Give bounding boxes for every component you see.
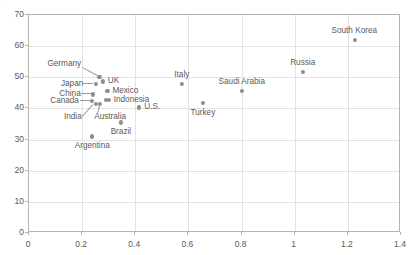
y-axis-tick-label: 70 <box>0 10 24 19</box>
point-label: Saudi Arabia <box>219 78 265 86</box>
x-axis-tick-label: 0.8 <box>226 240 256 249</box>
y-axis-tick-mark <box>25 201 28 202</box>
y-axis-tick-label: 30 <box>0 135 24 144</box>
data-point[interactable] <box>94 82 98 86</box>
gridline-horizontal <box>29 77 399 78</box>
point-label: Russia <box>290 59 315 67</box>
y-axis-tick-mark <box>25 139 28 140</box>
point-label: UK <box>108 77 119 85</box>
label-leader-line <box>82 67 97 76</box>
x-axis-tick-mark <box>294 232 295 235</box>
x-axis-tick-label: 1.2 <box>332 240 362 249</box>
point-label: Argentina <box>75 142 110 150</box>
data-point[interactable] <box>101 79 105 83</box>
gridline-vertical <box>82 15 83 231</box>
x-axis-tick-label: 0.2 <box>66 240 96 249</box>
top-cropped-fragment: ↑ ▪ ▪▪ <box>0 0 412 9</box>
x-axis-tick-label: 0.4 <box>119 240 149 249</box>
x-axis-tick-mark <box>400 232 401 235</box>
data-point[interactable] <box>239 89 243 93</box>
y-axis-tick-label: 60 <box>0 41 24 50</box>
gridline-horizontal <box>29 46 399 47</box>
x-axis-tick-mark <box>347 232 348 235</box>
point-label: Germany <box>47 60 81 68</box>
y-axis-tick-mark <box>25 76 28 77</box>
x-axis-tick-label: 1.4 <box>385 240 412 249</box>
point-label: India <box>64 113 82 121</box>
gridline-vertical <box>135 15 136 231</box>
y-axis-tick-mark <box>25 170 28 171</box>
point-label: U.S. <box>144 103 160 111</box>
point-label: Japan <box>61 80 83 88</box>
label-leader-line <box>84 83 94 84</box>
x-axis-tick-mark <box>241 232 242 235</box>
y-axis-tick-label: 50 <box>0 72 24 81</box>
y-axis-tick-mark <box>25 14 28 15</box>
y-axis-tick-mark <box>25 107 28 108</box>
y-axis-tick-mark <box>25 45 28 46</box>
data-point[interactable] <box>201 101 205 105</box>
data-point[interactable] <box>90 134 94 138</box>
label-leader-line <box>82 104 93 117</box>
gridline-vertical <box>188 15 189 231</box>
gridline-horizontal <box>29 202 399 203</box>
x-axis-tick-mark <box>134 232 135 235</box>
gridline-vertical <box>242 15 243 231</box>
y-axis-tick-label: 20 <box>0 166 24 175</box>
point-label: South Korea <box>332 27 378 35</box>
scatter-chart: ↑ ▪ ▪▪ South KoreaRussiaItalySaudi Arabi… <box>0 0 412 255</box>
y-axis-tick-label: 40 <box>0 103 24 112</box>
x-axis-tick-mark <box>81 232 82 235</box>
x-axis-tick-mark <box>187 232 188 235</box>
data-point[interactable] <box>301 70 305 74</box>
data-point[interactable] <box>180 82 184 86</box>
x-axis-tick-label: 1 <box>279 240 309 249</box>
point-label: Canada <box>50 97 79 105</box>
y-axis-tick-label: 0 <box>0 228 24 237</box>
x-axis-tick-label: 0 <box>13 240 43 249</box>
gridline-vertical <box>295 15 296 231</box>
data-point[interactable] <box>119 120 123 124</box>
top-fragment-text: ↑ ▪ ▪▪ <box>4 0 21 3</box>
gridline-horizontal <box>29 140 399 141</box>
data-point[interactable] <box>105 89 109 93</box>
data-point[interactable] <box>91 92 95 96</box>
x-axis-tick-label: 0.6 <box>172 240 202 249</box>
x-axis-tick-mark <box>28 232 29 235</box>
data-point[interactable] <box>352 38 356 42</box>
point-label: Indonesia <box>114 96 150 104</box>
point-label: Brazil <box>111 128 131 136</box>
y-axis-tick-label: 10 <box>0 197 24 206</box>
point-label: Italy <box>174 71 189 79</box>
point-label: Turkey <box>191 109 216 117</box>
gridline-vertical <box>348 15 349 231</box>
gridline-horizontal <box>29 171 399 172</box>
plot-area: South KoreaRussiaItalySaudi ArabiaTurkey… <box>28 14 400 232</box>
